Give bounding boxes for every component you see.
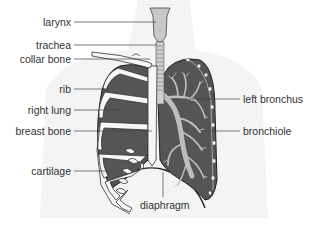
label-collar-bone: collar bone bbox=[20, 53, 71, 65]
label-left-bronchus: left bronchus bbox=[243, 93, 303, 105]
label-diaphragm: diaphragm bbox=[140, 199, 190, 211]
label-trachea: trachea bbox=[36, 39, 71, 51]
label-rib: rib bbox=[59, 83, 71, 95]
respiratory-diagram: larynx trachea collar bone rib right lun… bbox=[0, 0, 317, 232]
lungs-illustration bbox=[0, 0, 317, 232]
label-larynx: larynx bbox=[43, 16, 71, 28]
breast-bone bbox=[148, 66, 157, 166]
label-bronchiole: bronchiole bbox=[243, 125, 291, 137]
label-cartilage: cartilage bbox=[31, 165, 71, 177]
label-right-lung: right lung bbox=[28, 104, 71, 116]
label-breast-bone: breast bone bbox=[16, 125, 71, 137]
